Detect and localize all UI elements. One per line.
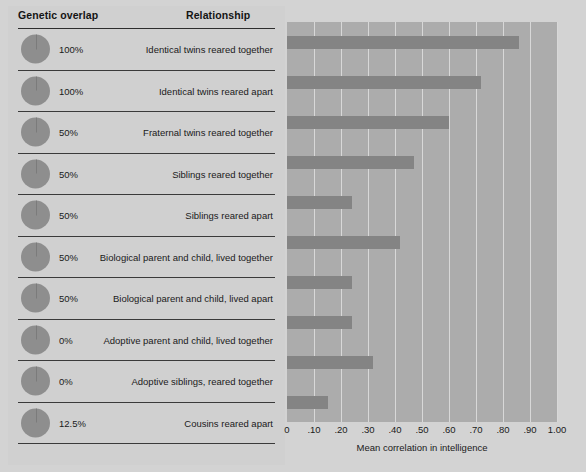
genetic-overlap-value: 50% bbox=[59, 251, 78, 262]
pie-slice-divider bbox=[36, 242, 37, 257]
x-tick-label: .20 bbox=[334, 424, 347, 435]
table-row: 50%Biological parent and child, lived ap… bbox=[18, 277, 275, 319]
bar-chart-panel: 0.10.20.30.40.50.60.70.80.901.00 Mean co… bbox=[287, 6, 579, 465]
relationship-label: Identical twins reared apart bbox=[159, 85, 273, 96]
table-row: 50%Siblings reared apart bbox=[18, 194, 275, 236]
x-tick-label: .40 bbox=[388, 424, 401, 435]
pie-slice-divider bbox=[36, 367, 37, 382]
relationship-label: Siblings reared apart bbox=[185, 210, 273, 221]
table-row: 12.5%Cousins reared apart bbox=[18, 402, 275, 445]
pie-slice-divider bbox=[36, 201, 37, 216]
x-axis-label: Mean correlation in intelligence bbox=[287, 442, 557, 453]
x-tick-label: .80 bbox=[496, 424, 509, 435]
bar bbox=[287, 396, 328, 409]
genetic-overlap-value: 100% bbox=[59, 44, 83, 55]
pie-slice-divider bbox=[36, 76, 37, 91]
column-header-relationship: Relationship bbox=[186, 9, 250, 21]
genetic-overlap-value: 50% bbox=[59, 127, 78, 138]
table-row: 50%Biological parent and child, lived to… bbox=[18, 236, 275, 278]
relationship-label: Fraternal twins reared together bbox=[143, 127, 273, 138]
genetic-overlap-pie-icon bbox=[21, 325, 50, 354]
bar bbox=[287, 356, 373, 369]
pie-slice-divider bbox=[36, 159, 37, 174]
bar bbox=[287, 316, 352, 329]
x-tick-label: .30 bbox=[361, 424, 374, 435]
x-axis-ticks: 0.10.20.30.40.50.60.70.80.901.00 bbox=[287, 424, 557, 440]
x-tick-label: 0 bbox=[284, 424, 289, 435]
pie-slice-divider bbox=[36, 118, 37, 133]
x-tick-label: .50 bbox=[415, 424, 428, 435]
pie-slice-divider bbox=[36, 284, 37, 299]
table-row: 100%Identical twins reared together bbox=[18, 28, 275, 70]
genetic-overlap-pie-icon bbox=[21, 159, 50, 188]
relationship-rows: 100%Identical twins reared together100%I… bbox=[8, 28, 285, 465]
relationship-label: Adoptive parent and child, lived togethe… bbox=[103, 334, 273, 345]
relationship-label: Biological parent and child, lived apart bbox=[113, 293, 273, 304]
genetic-overlap-value: 0% bbox=[59, 334, 73, 345]
gridline bbox=[503, 22, 504, 422]
x-tick-label: .60 bbox=[442, 424, 455, 435]
x-tick-label: .10 bbox=[307, 424, 320, 435]
x-tick-label: .90 bbox=[523, 424, 536, 435]
table-row: 100%Identical twins reared apart bbox=[18, 70, 275, 112]
bar bbox=[287, 196, 352, 209]
genetic-overlap-value: 0% bbox=[59, 376, 73, 387]
relationship-label: Adoptive siblings, reared together bbox=[131, 376, 273, 387]
pie-slice-divider bbox=[36, 35, 37, 50]
genetic-overlap-pie-icon bbox=[21, 118, 50, 147]
bar bbox=[287, 236, 400, 249]
bar bbox=[287, 76, 481, 89]
relationship-table-panel: Genetic overlap Relationship 100%Identic… bbox=[8, 6, 285, 465]
plot-area bbox=[287, 22, 557, 422]
relationship-label: Siblings reared together bbox=[172, 168, 273, 179]
bar bbox=[287, 116, 449, 129]
table-header-row: Genetic overlap Relationship bbox=[8, 6, 285, 28]
gridline bbox=[557, 22, 558, 422]
table-row: 0%Adoptive siblings, reared together bbox=[18, 360, 275, 402]
genetic-overlap-pie-icon bbox=[21, 284, 50, 313]
x-tick-label: .70 bbox=[469, 424, 482, 435]
genetic-overlap-pie-icon bbox=[21, 367, 50, 396]
genetic-overlap-value: 50% bbox=[59, 210, 78, 221]
genetic-overlap-pie-icon bbox=[21, 242, 50, 271]
relationship-label: Biological parent and child, lived toget… bbox=[100, 251, 273, 262]
relationship-label: Identical twins reared together bbox=[146, 44, 273, 55]
genetic-overlap-pie-icon bbox=[21, 408, 50, 437]
genetic-overlap-value: 50% bbox=[59, 293, 78, 304]
intelligence-correlation-figure: Genetic overlap Relationship 100%Identic… bbox=[0, 0, 586, 472]
table-row: 50%Fraternal twins reared together bbox=[18, 111, 275, 153]
genetic-overlap-value: 12.5% bbox=[59, 417, 86, 428]
genetic-overlap-pie-icon bbox=[21, 201, 50, 230]
table-row: 50%Siblings reared together bbox=[18, 153, 275, 195]
bar bbox=[287, 276, 352, 289]
pie-slice-divider bbox=[36, 325, 37, 340]
genetic-overlap-value: 100% bbox=[59, 85, 83, 96]
genetic-overlap-pie-icon bbox=[21, 35, 50, 64]
bar bbox=[287, 36, 519, 49]
genetic-overlap-pie-icon bbox=[21, 76, 50, 105]
genetic-overlap-value: 50% bbox=[59, 168, 78, 179]
column-header-genetic-overlap: Genetic overlap bbox=[18, 9, 98, 21]
gridline bbox=[530, 22, 531, 422]
table-row: 0%Adoptive parent and child, lived toget… bbox=[18, 319, 275, 361]
pie-slice-divider bbox=[36, 408, 37, 423]
x-tick-label: 1.00 bbox=[548, 424, 567, 435]
bar bbox=[287, 156, 414, 169]
relationship-label: Cousins reared apart bbox=[184, 417, 273, 428]
